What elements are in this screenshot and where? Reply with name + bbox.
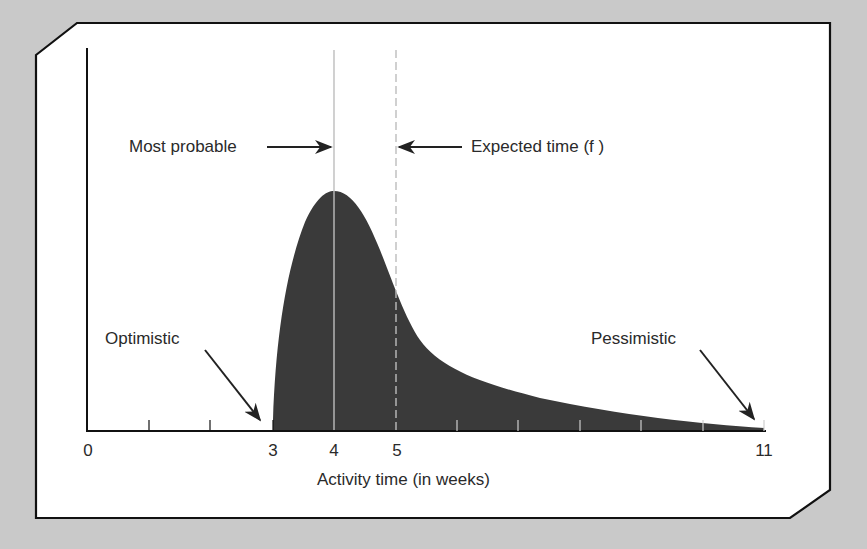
- beta-distribution-diagram: [0, 0, 867, 549]
- diagram-stage: Most probable Expected time (f ) Optimis…: [0, 0, 867, 549]
- x-tick-label-4: 4: [329, 441, 338, 461]
- x-tick-label-0: 0: [83, 441, 92, 461]
- panel-frame: [36, 23, 830, 518]
- x-tick-label-3: 3: [268, 441, 277, 461]
- most-probable-label: Most probable: [129, 137, 237, 157]
- expected-time-label: Expected time (f ): [471, 137, 604, 157]
- x-tick-label-11: 11: [755, 441, 773, 461]
- optimistic-label: Optimistic: [105, 329, 180, 349]
- pessimistic-label: Pessimistic: [591, 329, 676, 349]
- x-axis-title: Activity time (in weeks): [317, 470, 490, 490]
- x-tick-label-5: 5: [392, 441, 401, 461]
